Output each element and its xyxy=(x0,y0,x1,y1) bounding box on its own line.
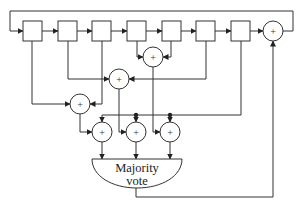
junction-dot xyxy=(168,113,172,117)
xor-top-node: + xyxy=(143,47,163,67)
xor-mid-node: + xyxy=(109,69,129,89)
xor-plus-icon: + xyxy=(99,127,105,138)
xor-output-node: + xyxy=(263,21,283,41)
register-cell-2 xyxy=(58,21,77,41)
vote-label-line1: Majority xyxy=(115,161,159,175)
xor-bottom-3-node: + xyxy=(160,122,180,142)
shift-register-diagram: +++++++ Majority vote xyxy=(0,0,301,207)
register-cell-7 xyxy=(231,21,250,41)
xor-low-node: + xyxy=(70,94,90,114)
junction-dot xyxy=(134,113,138,117)
xor-plus-icon: + xyxy=(270,26,276,37)
xor-plus-icon: + xyxy=(133,127,139,138)
register-cell-1 xyxy=(23,21,42,41)
xor-plus-icon: + xyxy=(150,52,156,63)
xor-bottom-2-node: + xyxy=(126,122,146,142)
register-cell-4 xyxy=(127,21,146,41)
register-cell-3 xyxy=(92,21,111,41)
xor-plus-icon: + xyxy=(116,74,122,85)
register-cell-6 xyxy=(196,21,215,41)
register-cell-5 xyxy=(162,21,181,41)
feedback-line xyxy=(10,11,293,31)
xor-plus-icon: + xyxy=(167,127,173,138)
majority-vote-block: Majority vote xyxy=(92,159,182,188)
xor-plus-icon: + xyxy=(77,99,83,110)
xor-bottom-1-node: + xyxy=(92,122,112,142)
vote-label-line2: vote xyxy=(126,174,148,188)
